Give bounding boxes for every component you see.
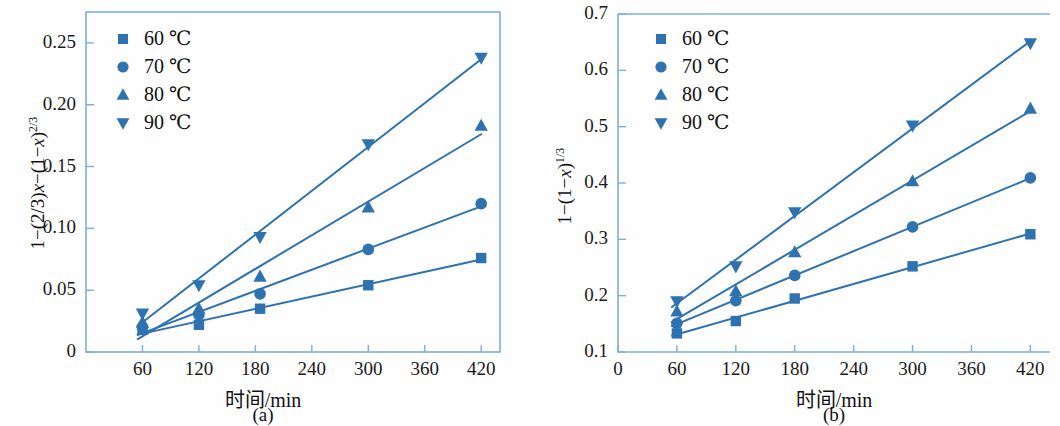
data-point-circle-marker (671, 317, 683, 329)
y-axis-tick-label: 0.20 (10, 93, 76, 115)
data-point-circle-marker (362, 244, 374, 256)
data-point-square-marker (672, 328, 682, 338)
figure-container: 60 ℃70 ℃80 ℃90 ℃ 1−(2/3)x−(1−x)2/3 时间/mi… (0, 0, 1060, 426)
triangle-up-marker (112, 84, 134, 104)
panel-a-caption: (a) (183, 404, 343, 426)
panel-a-legend-item: 90 ℃ (112, 110, 191, 134)
y-axis-tick-label: 0.2 (542, 284, 608, 306)
triangle-down-marker (112, 112, 134, 132)
triangle-down-marker (655, 118, 668, 130)
panel-b-legend-item: 80 ℃ (650, 82, 729, 106)
data-point-square-marker (907, 261, 917, 271)
square-marker (656, 34, 666, 44)
data-point-triangle-up-marker (253, 270, 266, 282)
circle-marker (655, 61, 666, 72)
y-axis-tick-label: 0.10 (10, 216, 76, 238)
y-axis-tick-label: 0.3 (542, 227, 608, 249)
circle-marker (112, 56, 134, 76)
panel-a-legend-label: 80 ℃ (144, 82, 191, 106)
panel-b-legend-label: 90 ℃ (682, 110, 729, 134)
y-axis-tick-label: 0.1 (542, 340, 608, 362)
panel-a-legend-label: 70 ℃ (144, 54, 191, 78)
data-point-triangle-up-marker (729, 284, 742, 296)
panel-b-legend: 60 ℃70 ℃80 ℃90 ℃ (650, 26, 729, 134)
series-trend-line (672, 111, 1030, 322)
series-trend-line (138, 134, 481, 339)
data-point-triangle-up-marker (192, 302, 205, 314)
y-axis-tick-label: 0.05 (10, 278, 76, 300)
y-axis-tick-label: 0.25 (10, 31, 76, 53)
data-point-triangle-down-marker (192, 280, 205, 292)
panel-a-legend: 60 ℃70 ℃80 ℃90 ℃ (112, 26, 191, 134)
chart-panel-a: 60 ℃70 ℃80 ℃90 ℃ 1−(2/3)x−(1−x)2/3 时间/mi… (0, 0, 530, 426)
panel-b-legend-item: 90 ℃ (650, 110, 729, 134)
data-point-triangle-down-marker (906, 120, 919, 132)
circle-marker (650, 56, 672, 76)
y-axis-tick-label: 0 (10, 340, 76, 362)
panel-b-legend-label: 60 ℃ (682, 26, 729, 50)
panel-b-legend-label: 70 ℃ (682, 54, 729, 78)
panel-a-legend-item: 60 ℃ (112, 26, 191, 50)
series-trend-line (672, 178, 1030, 326)
data-point-square-marker (476, 253, 486, 263)
data-point-circle-marker (907, 221, 919, 233)
data-point-square-marker (194, 320, 204, 330)
data-point-circle-marker (1025, 172, 1037, 184)
triangle-down-marker (117, 118, 130, 130)
data-point-circle-marker (730, 295, 742, 307)
triangle-up-marker (117, 88, 130, 100)
panel-a-legend-label: 90 ℃ (144, 110, 191, 134)
circle-marker (117, 61, 128, 72)
y-axis-tick-label: 0.5 (542, 115, 608, 137)
triangle-up-marker (655, 88, 668, 100)
data-point-triangle-up-marker (362, 200, 375, 212)
square-marker (112, 28, 134, 48)
panel-b-legend-item: 70 ℃ (650, 54, 729, 78)
panel-b-caption: (b) (754, 404, 914, 426)
data-point-square-marker (1025, 229, 1035, 239)
panel-a-legend-label: 60 ℃ (144, 26, 191, 50)
data-point-square-marker (363, 280, 373, 290)
data-point-triangle-up-marker (1024, 102, 1037, 114)
panel-b-legend-item: 60 ℃ (650, 26, 729, 50)
panel-b-legend-label: 80 ℃ (682, 82, 729, 106)
panel-a-legend-item: 80 ℃ (112, 82, 191, 106)
data-point-triangle-up-marker (906, 174, 919, 186)
x-axis-tick-label: 420 (441, 358, 521, 380)
square-marker (118, 34, 128, 44)
data-point-triangle-up-marker (475, 119, 488, 131)
data-point-triangle-down-marker (253, 232, 266, 244)
square-marker (650, 28, 672, 48)
data-point-square-marker (255, 304, 265, 314)
x-axis-tick-label: 420 (990, 358, 1060, 380)
y-axis-tick-label: 0.7 (542, 2, 608, 24)
y-axis-tick-label: 0.15 (10, 155, 76, 177)
data-point-circle-marker (475, 198, 487, 210)
series-trend-line (672, 234, 1030, 336)
y-axis-tick-label: 0.4 (542, 171, 608, 193)
triangle-down-marker (650, 112, 672, 132)
data-point-circle-marker (254, 288, 266, 300)
data-point-circle-marker (789, 270, 801, 282)
triangle-up-marker (650, 84, 672, 104)
data-point-square-marker (790, 293, 800, 303)
data-point-square-marker (731, 316, 741, 326)
panel-a-legend-item: 70 ℃ (112, 54, 191, 78)
y-axis-tick-label: 0.6 (542, 58, 608, 80)
chart-panel-b: 60 ℃70 ℃80 ℃90 ℃ 1−(1−x)1/3 时间/min (b) 0… (530, 0, 1060, 426)
data-point-triangle-down-marker (729, 261, 742, 273)
